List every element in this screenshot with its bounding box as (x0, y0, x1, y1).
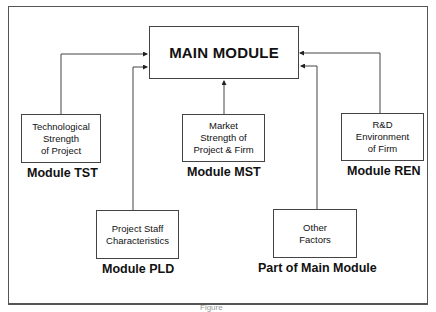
box-text-line: of Firm (368, 143, 398, 155)
box-text-line: Environment (356, 131, 409, 143)
box-text-line: Characteristics (106, 235, 169, 247)
box-text-line: R&D (372, 119, 392, 131)
box-text-line: Technological (32, 121, 90, 133)
box-text-line: Market (209, 120, 238, 132)
box-text-line: Project Staff (112, 223, 164, 235)
other-factors-box: Other Factors (273, 209, 357, 258)
module-mst-box: Market Strength of Project & Firm (182, 114, 265, 162)
module-ren-box: R&D Environment of Firm (341, 113, 424, 161)
module-tst-label: Module TST (27, 166, 98, 180)
box-text-line: Project & Firm (193, 144, 253, 156)
box-text-line: of Project (41, 145, 81, 157)
main-module-box: MAIN MODULE (149, 26, 299, 79)
main-module-title: MAIN MODULE (169, 47, 279, 59)
module-pld-box: Project Staff Characteristics (96, 210, 179, 259)
module-ren-label: Module REN (347, 164, 421, 178)
box-text-line: Factors (299, 234, 331, 246)
module-pld-label: Module PLD (102, 262, 174, 276)
module-tst-box: Technological Strength of Project (21, 114, 101, 163)
module-mst-label: Module MST (187, 165, 261, 179)
figure-caption: Figure (200, 303, 223, 312)
box-text-line: Strength (43, 133, 79, 145)
other-factors-label: Part of Main Module (258, 261, 377, 275)
box-text-line: Other (303, 222, 327, 234)
box-text-line: Strength of (200, 132, 246, 144)
